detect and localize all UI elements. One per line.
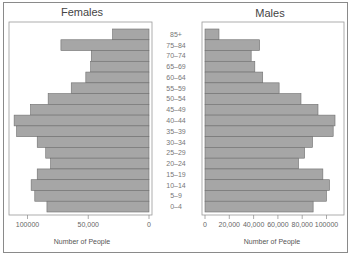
male-bar-6: [205, 94, 301, 105]
age-label: 40–44: [166, 117, 186, 124]
age-label: 0–4: [170, 203, 182, 210]
male-bar-9: [205, 126, 333, 137]
male-bar-10: [205, 137, 313, 148]
females-x-ticks: 10000050,0000: [16, 215, 151, 228]
male-bar-11: [205, 147, 305, 158]
male-tick-label: 40,000: [243, 221, 265, 228]
male-bar-0: [205, 29, 219, 40]
females-x-axis-label: Number of People: [54, 238, 111, 246]
male-tick-label: 20,000: [219, 221, 241, 228]
age-label: 70–74: [166, 52, 186, 59]
female-bar-4: [86, 72, 149, 83]
female-bar-16: [47, 201, 149, 212]
female-tick-label: 0: [147, 221, 151, 228]
female-bar-2: [91, 51, 149, 62]
male-bar-15: [205, 190, 327, 201]
male-bar-14: [205, 180, 330, 191]
male-tick-label: 100000: [315, 221, 338, 228]
age-label: 25–29: [166, 149, 186, 156]
age-label: 30–34: [166, 139, 186, 146]
female-bar-9: [17, 126, 149, 137]
males-panel-title: Males: [255, 7, 285, 19]
female-tick-label: 100000: [16, 221, 39, 228]
age-label: 10–14: [166, 182, 186, 189]
female-bar-12: [51, 158, 149, 169]
female-bar-8: [14, 115, 149, 126]
male-bar-13: [205, 169, 323, 180]
male-bar-7: [205, 104, 318, 115]
males-x-axis-label: Number of People: [244, 238, 301, 246]
male-tick-label: 60,000: [267, 221, 289, 228]
female-bar-11: [46, 147, 149, 158]
female-bar-10: [37, 137, 149, 148]
female-bar-5: [71, 83, 149, 94]
age-label: 85+: [170, 31, 182, 38]
age-label: 55–59: [166, 85, 186, 92]
female-tick-label: 50,000: [78, 221, 100, 228]
age-label: 75–84: [166, 42, 186, 49]
male-tick-label: 0: [203, 221, 207, 228]
female-bar-13: [37, 169, 149, 180]
females-panel-title: Females: [61, 6, 104, 18]
age-label: 45–49: [166, 106, 186, 113]
males-x-ticks: 020,00040,00060,00080,000100000: [203, 215, 338, 228]
female-bar-1: [61, 40, 149, 51]
age-label: 60–64: [166, 74, 186, 81]
population-pyramid-chart: Females 10000050,0000 Number of People 8…: [0, 0, 351, 256]
female-bar-6: [48, 94, 149, 105]
male-bar-5: [205, 83, 279, 94]
male-tick-label: 80,000: [291, 221, 313, 228]
male-bar-16: [205, 201, 313, 212]
female-bar-7: [31, 104, 149, 115]
age-group-labels: 85+75–8470–7465–6960–6455–5950–5445–4940…: [166, 31, 186, 210]
age-label: 35–39: [166, 128, 186, 135]
female-bar-0: [113, 29, 149, 40]
age-label: 15–19: [166, 171, 186, 178]
age-label: 20–24: [166, 160, 186, 167]
male-bar-4: [205, 72, 263, 83]
male-bar-12: [205, 158, 299, 169]
male-bar-1: [205, 40, 260, 51]
male-bar-8: [205, 115, 335, 126]
male-bar-3: [205, 61, 255, 72]
male-bar-2: [205, 51, 251, 62]
female-bar-3: [91, 61, 149, 72]
female-bar-15: [35, 190, 149, 201]
females-bars: [14, 29, 149, 212]
age-label: 5–9: [170, 192, 182, 199]
female-bar-14: [31, 180, 149, 191]
males-bars: [205, 29, 335, 212]
age-label: 65–69: [166, 63, 186, 70]
age-label: 50–54: [166, 95, 186, 102]
